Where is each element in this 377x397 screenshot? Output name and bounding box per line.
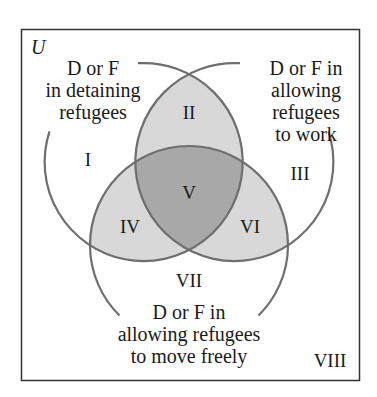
- universe-label: U: [31, 36, 51, 58]
- set-label-detaining: D or F in detaining refugees: [38, 57, 148, 123]
- region-III: III: [280, 164, 320, 184]
- region-V: V: [177, 183, 201, 203]
- region-VII: VII: [168, 271, 210, 291]
- region-VIII: VIII: [306, 351, 354, 371]
- region-I: I: [76, 150, 100, 170]
- set-label-move: D or F in allowing refugees to move free…: [100, 301, 278, 367]
- region-IV: IV: [114, 217, 146, 237]
- region-VI: VI: [234, 217, 266, 237]
- venn-diagram: U D or F in detaining refugees D or F in…: [0, 0, 377, 397]
- set-label-work: D or F in allowing refugees to work: [256, 57, 356, 145]
- region-II: II: [174, 103, 204, 123]
